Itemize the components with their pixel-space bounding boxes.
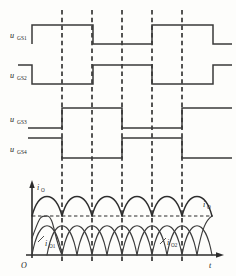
io1-arch-3 — [92, 226, 122, 255]
y-axis-label-sub: O — [41, 187, 45, 193]
origin-label: O — [21, 261, 27, 270]
signal-label-gs3: u GS3 — [10, 115, 27, 125]
io-curve-label-base: i — [203, 200, 205, 209]
io-arch-2 — [62, 197, 92, 217]
y-axis-arrowhead — [29, 180, 34, 188]
figure-root: u GS1 u GS2 u GS3 u GS4 — [0, 0, 236, 276]
io1-curve-label-sub: O1 — [49, 243, 56, 249]
signal-trace-gs4 — [28, 138, 232, 158]
signal-trace-gs2 — [18, 65, 232, 84]
signal-label-gs1: u GS1 — [10, 31, 27, 41]
gs3-waveform-path — [28, 108, 232, 128]
io1-leader-line — [38, 236, 44, 242]
gs1-label-sub: GS1 — [17, 35, 27, 41]
gs3-label-base: u — [10, 115, 14, 124]
io1-arch-4 — [122, 226, 152, 255]
y-axis-label-base: i — [37, 183, 39, 192]
gs3-label-sub: GS3 — [17, 119, 27, 125]
io-arch-3 — [92, 197, 122, 217]
io1-arch-6 — [182, 226, 212, 255]
io2-arch-6 — [197, 216, 212, 255]
marker-lines-group — [62, 10, 182, 262]
gs4-label-sub: GS4 — [17, 149, 27, 155]
io2-curve-label-base: i — [167, 238, 169, 247]
signal-label-gs2: u GS2 — [10, 71, 27, 81]
io-arch-1 — [32, 197, 62, 217]
waveform-diagram: u GS1 u GS2 u GS3 u GS4 — [0, 0, 236, 276]
io2-curve-label-sub: O2 — [171, 242, 178, 248]
gs2-waveform-path — [18, 65, 232, 84]
signal-label-gs4: u GS4 — [10, 145, 27, 155]
io1-curve-label-base: i — [45, 239, 47, 248]
gs2-label-base: u — [10, 71, 14, 80]
gs2-label-sub: GS2 — [17, 75, 27, 81]
io-arch-5 — [152, 197, 182, 217]
x-axis-label: t — [209, 261, 212, 270]
gs1-label-base: u — [10, 31, 14, 40]
gs4-label-base: u — [10, 145, 14, 154]
io2-arch-0 — [32, 216, 62, 255]
io-arch-4 — [122, 197, 152, 217]
io-curve-label-sub: O — [207, 204, 211, 210]
io1-arch-2 — [62, 226, 92, 255]
gs4-waveform-path — [28, 138, 232, 158]
x-axis-arrowhead — [216, 252, 224, 257]
signal-trace-gs3 — [28, 108, 232, 128]
